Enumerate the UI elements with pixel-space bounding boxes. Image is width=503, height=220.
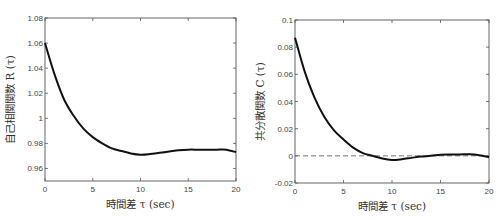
x-tick-label: 10 bbox=[136, 185, 145, 194]
y-tick-label: 1.02 bbox=[27, 89, 43, 98]
x-tick-label: 0 bbox=[293, 187, 298, 196]
y-tick-label: 0.08 bbox=[277, 43, 293, 52]
plot-frame bbox=[295, 20, 489, 183]
covariance-plot: 05101520-0.0200.020.040.060.080.1時間差 τ (… bbox=[251, 0, 503, 220]
x-tick-label: 5 bbox=[341, 187, 346, 196]
y-tick-label: 1.08 bbox=[27, 14, 43, 23]
covariance-chart: 05101520-0.0200.020.040.060.080.1時間差 τ (… bbox=[251, 0, 502, 220]
y-axis-title: 共分散関数 C (τ) bbox=[254, 62, 266, 141]
x-tick-label: 20 bbox=[485, 187, 494, 196]
y-tick-label: 1.04 bbox=[27, 64, 43, 73]
autocorrelation-plot: 051015200.960.9811.021.041.061.08時間差 τ (… bbox=[0, 0, 251, 220]
x-tick-label: 15 bbox=[184, 185, 193, 194]
x-tick-label: 0 bbox=[43, 185, 48, 194]
x-tick-label: 5 bbox=[91, 185, 96, 194]
y-axis-title: 自己相関関数 R (τ) bbox=[4, 55, 16, 144]
autocorrelation-chart: 051015200.960.9811.021.041.061.08時間差 τ (… bbox=[0, 0, 251, 220]
y-tick-label: 0.02 bbox=[277, 125, 293, 134]
y-tick-label: 0.1 bbox=[282, 16, 294, 25]
covariance-curve bbox=[295, 38, 489, 160]
x-tick-label: 15 bbox=[436, 187, 445, 196]
y-tick-label: 0.98 bbox=[27, 139, 43, 148]
y-tick-label: 0.06 bbox=[277, 70, 293, 79]
y-tick-label: 1.06 bbox=[27, 39, 43, 48]
y-tick-label: -0.02 bbox=[275, 179, 294, 188]
x-tick-label: 10 bbox=[388, 187, 397, 196]
y-tick-label: 0 bbox=[289, 152, 294, 161]
x-axis-title: 時間差 τ (sec) bbox=[358, 200, 426, 212]
x-tick-label: 20 bbox=[232, 185, 241, 194]
x-axis-title: 時間差 τ (sec) bbox=[106, 198, 174, 210]
y-tick-label: 0.96 bbox=[27, 164, 43, 173]
autocorrelation-curve bbox=[45, 43, 236, 155]
y-tick-label: 0.04 bbox=[277, 98, 293, 107]
plot-frame bbox=[45, 18, 236, 181]
y-tick-label: 1 bbox=[39, 114, 44, 123]
